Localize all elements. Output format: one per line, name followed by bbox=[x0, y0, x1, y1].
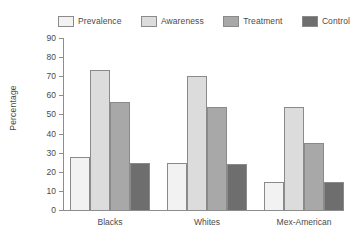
caption-fragment bbox=[0, 233, 357, 245]
y-tick-label: 60 bbox=[32, 90, 56, 100]
legend-swatch-awareness bbox=[141, 16, 157, 27]
y-tick-mark bbox=[59, 95, 63, 96]
y-tick-mark bbox=[59, 153, 63, 154]
bar-control-blacks bbox=[130, 163, 150, 210]
chart-legend: Prevalence Awareness Treatment Control bbox=[58, 13, 350, 29]
y-tick-mark bbox=[59, 76, 63, 77]
y-tick-mark bbox=[59, 38, 63, 39]
x-axis-line bbox=[63, 210, 344, 211]
bar-control-whites bbox=[227, 164, 247, 210]
bar-treatment-blacks bbox=[110, 102, 130, 210]
y-tick-mark bbox=[59, 191, 63, 192]
y-tick-label: 50 bbox=[32, 109, 56, 119]
x-axis-group-label: Whites bbox=[167, 217, 247, 227]
y-tick-mark bbox=[59, 114, 63, 115]
legend-label-control: Control bbox=[322, 16, 350, 26]
y-axis-title: Percentage bbox=[6, 0, 20, 215]
y-tick-mark bbox=[59, 134, 63, 135]
y-tick-label: 40 bbox=[32, 129, 56, 139]
bar-awareness-mex-american bbox=[284, 107, 304, 210]
bar-awareness-whites bbox=[187, 76, 207, 210]
y-tick-label: 10 bbox=[32, 186, 56, 196]
y-tick-mark bbox=[59, 57, 63, 58]
bar-chart-figure: Prevalence Awareness Treatment Control P… bbox=[0, 0, 357, 245]
bar-prevalence-whites bbox=[167, 163, 187, 210]
y-axis-title-text: Percentage bbox=[8, 85, 18, 130]
bar-control-mex-american bbox=[324, 182, 344, 210]
x-axis-group-label: Mex-American bbox=[264, 217, 344, 227]
bar-group: Mex-American bbox=[264, 38, 344, 210]
y-tick-label: 0 bbox=[32, 205, 56, 215]
bar-group-spacer bbox=[247, 38, 264, 210]
y-tick-mark bbox=[59, 172, 63, 173]
legend-label-treatment: Treatment bbox=[243, 16, 282, 26]
legend-label-prevalence: Prevalence bbox=[78, 16, 122, 26]
bar-prevalence-mex-american bbox=[264, 182, 284, 210]
legend-entry-treatment: Treatment bbox=[223, 16, 282, 27]
bar-treatment-whites bbox=[207, 107, 227, 210]
legend-label-awareness: Awareness bbox=[161, 16, 204, 26]
legend-entry-prevalence: Prevalence bbox=[58, 16, 122, 27]
bar-group-spacer bbox=[150, 38, 167, 210]
legend-swatch-treatment bbox=[223, 16, 239, 27]
legend-entry-control: Control bbox=[302, 16, 350, 27]
legend-swatch-control bbox=[302, 16, 318, 27]
y-tick-label: 20 bbox=[32, 167, 56, 177]
bar-group: Blacks bbox=[70, 38, 150, 210]
bar-awareness-blacks bbox=[90, 70, 110, 210]
y-tick-label: 90 bbox=[32, 33, 56, 43]
bar-group: Whites bbox=[167, 38, 247, 210]
legend-entry-awareness: Awareness bbox=[141, 16, 204, 27]
plot-area: 0102030405060708090 BlacksWhitesMex-Amer… bbox=[63, 38, 344, 211]
y-tick-label: 30 bbox=[32, 148, 56, 158]
bar-treatment-mex-american bbox=[304, 143, 324, 210]
y-tick-label: 70 bbox=[32, 71, 56, 81]
bar-prevalence-blacks bbox=[70, 157, 90, 211]
legend-swatch-prevalence bbox=[58, 16, 74, 27]
x-axis-group-label: Blacks bbox=[70, 217, 150, 227]
y-tick-label: 80 bbox=[32, 52, 56, 62]
bar-groups: BlacksWhitesMex-American bbox=[64, 38, 344, 210]
y-tick-mark bbox=[59, 210, 63, 211]
